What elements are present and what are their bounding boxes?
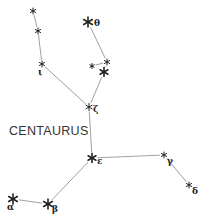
star-icon-s2 [34, 27, 42, 35]
constellation-line [38, 31, 42, 64]
constellation-line [48, 158, 92, 204]
star-label-delta: δ [192, 186, 198, 196]
star-icon-epsilon [87, 153, 98, 164]
star-icon-s7 [99, 67, 110, 78]
star-label-gamma: γ [167, 156, 173, 166]
constellation-line [89, 72, 104, 107]
star-label-epsilon: ε [97, 156, 102, 166]
star-icon-s5 [89, 63, 96, 70]
star-label-beta: β [52, 204, 58, 214]
star-icon-s1 [29, 7, 37, 15]
constellation-line [42, 64, 89, 107]
star-label-zeta: ζ [93, 104, 98, 114]
star-label-alpha: α [7, 202, 14, 212]
constellation-line [88, 22, 107, 62]
constellation-line [92, 155, 164, 158]
star-label-theta: θ [94, 18, 100, 28]
star-icon-theta [82, 16, 94, 28]
star-icon-s6 [103, 58, 111, 66]
star-label-iota: ι [38, 67, 42, 77]
constellation-title: CENTAURUS [9, 124, 89, 138]
constellation-line [89, 107, 92, 158]
constellation-diagram: ιθζεγδαβ [0, 0, 213, 224]
